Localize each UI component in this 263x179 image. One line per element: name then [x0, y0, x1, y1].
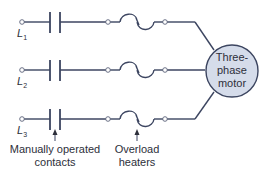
heaters-label-line-2: heaters	[119, 156, 156, 168]
phase-line-3	[20, 92, 214, 130]
line-label-3: L3	[17, 124, 27, 138]
line-label-1: L1	[17, 27, 27, 41]
contacts-label-line-2: contacts	[35, 156, 76, 168]
three-phase-motor: Three- phase motor	[206, 45, 258, 97]
diagram-svg: L1 L2 L3 Three- phase motor Manually ope…	[0, 0, 263, 179]
motor-label-line-2: phase	[217, 64, 247, 76]
heaters-arrow-icon	[135, 129, 140, 141]
contacts-arrow-icon	[53, 129, 58, 141]
motor-label-line-1: Three-	[216, 51, 249, 63]
heaters-label-line-1: Overload	[115, 143, 160, 155]
phase-line-2	[20, 60, 205, 81]
phase-line-1	[20, 12, 214, 50]
line-label-2: L2	[17, 75, 27, 89]
motor-label-line-3: motor	[218, 77, 246, 89]
motor-circuit-diagram: L1 L2 L3 Three- phase motor Manually ope…	[0, 0, 263, 179]
contacts-label-line-1: Manually operated	[10, 143, 101, 155]
